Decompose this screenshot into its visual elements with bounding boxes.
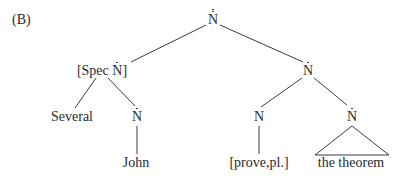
right-nbar-category: N (303, 63, 313, 79)
node-several: Several (51, 109, 93, 125)
node-right-nbar: N (303, 63, 313, 79)
prove-text: [prove,pl.] (229, 155, 288, 170)
node-object-nbar: N (347, 109, 357, 125)
figure-label: (B) (12, 12, 31, 28)
node-prove: [prove,pl.] (229, 155, 288, 171)
node-left-nbar: N (132, 109, 142, 125)
node-n-head: N (254, 109, 264, 125)
spec-suffix: ] (122, 63, 127, 78)
node-john: John (123, 155, 149, 171)
edge-right-n (261, 78, 302, 107)
spec-category: N (112, 63, 122, 79)
several-text: Several (51, 109, 93, 124)
john-text: John (123, 155, 149, 170)
syntax-tree-diagram: (B) N [Spec N] N Several N N N John [pro… (0, 0, 401, 182)
root-category: N (208, 12, 218, 28)
node-root-n-double-bar: N (208, 12, 218, 28)
edge-spec-nbar (108, 78, 135, 106)
left-nbar-category: N (132, 109, 142, 125)
edge-spec-several (75, 78, 96, 108)
edge-right-objnbar (314, 78, 347, 105)
edge-root-right (220, 25, 303, 62)
theorem-text: the theorem (318, 155, 384, 170)
edge-root-spec (131, 25, 206, 62)
node-spec-nbar: [Spec N] (77, 63, 127, 79)
node-the-theorem: the theorem (318, 155, 384, 171)
obj-nbar-category: N (347, 109, 357, 125)
triangle-theorem (315, 126, 389, 155)
spec-prefix: [Spec (77, 63, 112, 78)
n-head-category: N (254, 109, 264, 125)
